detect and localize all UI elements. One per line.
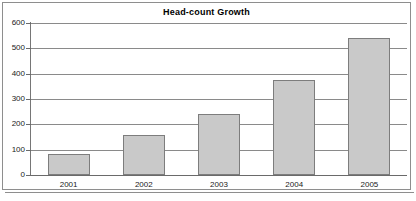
y-tick-0 (26, 175, 31, 176)
y-tick-400 (26, 74, 31, 75)
y-tick-100 (26, 150, 31, 151)
plot-area (31, 23, 407, 175)
y-tick-600 (26, 23, 31, 24)
bar-2001 (48, 154, 90, 175)
gridline-600 (31, 23, 407, 24)
y-axis-label-100: 100 (3, 146, 25, 154)
x-axis-label-2005: 2005 (349, 180, 389, 189)
bottom-rule (5, 192, 414, 193)
bar-2003 (198, 114, 240, 175)
y-tick-200 (26, 124, 31, 125)
x-axis-label-2003: 2003 (199, 180, 239, 189)
chart-title: Head-count Growth (3, 7, 410, 17)
bar-2004 (273, 80, 315, 175)
y-tick-300 (26, 99, 31, 100)
y-tick-500 (26, 48, 31, 49)
y-axis-label-300: 300 (3, 95, 25, 103)
y-axis-label-200: 200 (3, 120, 25, 128)
x-axis-label-2004: 2004 (274, 180, 314, 189)
bar-2005 (348, 38, 390, 175)
y-axis-label-600: 600 (3, 19, 25, 27)
y-axis-label-500: 500 (3, 44, 25, 52)
gridline-0 (31, 175, 407, 176)
x-axis-label-2001: 2001 (49, 180, 89, 189)
bar-2002 (123, 135, 165, 175)
y-axis-label-400: 400 (3, 70, 25, 78)
chart-frame: Head-count Growth 0100200300400500600 20… (2, 2, 411, 190)
chart-screenshot: Head-count Growth 0100200300400500600 20… (0, 0, 416, 201)
y-axis-label-0: 0 (3, 171, 25, 179)
x-axis-label-2002: 2002 (124, 180, 164, 189)
